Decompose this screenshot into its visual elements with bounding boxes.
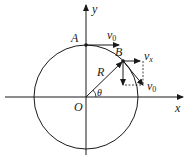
angle-arc xyxy=(93,90,96,97)
v0-vector-at-b xyxy=(123,61,143,85)
radius-label: R xyxy=(96,65,105,79)
v0-label-b: v0 xyxy=(147,79,156,94)
y-axis-label: y xyxy=(91,2,98,16)
angle-label: θ xyxy=(97,87,102,98)
v0-label-a: v0 xyxy=(107,28,116,43)
x-axis-label: x xyxy=(174,101,181,115)
origin-label: O xyxy=(74,100,83,114)
point-b-label: B xyxy=(115,45,123,59)
vx-label: vx xyxy=(144,49,153,64)
point-a-label: A xyxy=(70,31,79,45)
diagram-canvas: y x O A B R θ v0 vx v0 xyxy=(0,0,192,164)
